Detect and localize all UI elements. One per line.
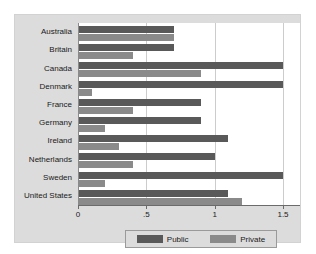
- bar-public: [78, 62, 283, 69]
- bar-group: [78, 169, 300, 187]
- bar-public: [78, 172, 283, 179]
- legend-label-public: Public: [167, 235, 189, 244]
- bar-public: [78, 99, 201, 106]
- bars-layer: [78, 23, 300, 205]
- category-label: Australia: [41, 27, 72, 36]
- plot-area: [78, 23, 300, 205]
- legend-swatch-public-icon: [137, 235, 163, 243]
- x-tick: [78, 205, 79, 209]
- category-label: Denmark: [40, 82, 72, 91]
- bar-public: [78, 81, 283, 88]
- graph-panel: AustraliaBritainCanadaDenmarkFranceGerma…: [14, 14, 301, 243]
- x-tick: [215, 205, 216, 209]
- chart-legend: Public Private: [125, 230, 277, 248]
- bar-public: [78, 190, 228, 197]
- x-tick-label: 0: [76, 210, 80, 219]
- category-label: Canada: [44, 64, 72, 73]
- x-tick-label: 1: [212, 210, 216, 219]
- category-label: Netherlands: [29, 155, 72, 164]
- bar-public: [78, 153, 215, 160]
- bar-public: [78, 117, 201, 124]
- x-tick-label: .5: [143, 210, 150, 219]
- clipped-header-text: [0, 0, 316, 8]
- bar-public: [78, 26, 174, 33]
- x-tick: [146, 205, 147, 209]
- bar-group: [78, 78, 300, 96]
- chart-figure: AustraliaBritainCanadaDenmarkFranceGerma…: [0, 0, 316, 254]
- legend-entry-public: Public: [137, 235, 189, 244]
- bar-private: [78, 161, 133, 168]
- bar-private: [78, 125, 105, 132]
- bar-group: [78, 96, 300, 114]
- legend-swatch-private-icon: [210, 235, 236, 243]
- legend-label-private: Private: [240, 235, 265, 244]
- clipped-header-glyphs: [18, 0, 316, 4]
- category-label: France: [47, 100, 72, 109]
- bar-group: [78, 187, 300, 205]
- category-label: United States: [24, 191, 72, 200]
- bar-group: [78, 41, 300, 59]
- bar-private: [78, 52, 133, 59]
- x-tick-label: 1.5: [277, 210, 288, 219]
- bar-private: [78, 107, 133, 114]
- category-label: Sweden: [43, 173, 72, 182]
- x-tick: [283, 205, 284, 209]
- bar-private: [78, 89, 92, 96]
- bar-public: [78, 44, 174, 51]
- bar-private: [78, 180, 105, 187]
- bar-public: [78, 135, 228, 142]
- bar-group: [78, 150, 300, 168]
- bar-private: [78, 70, 201, 77]
- bar-private: [78, 198, 242, 205]
- bar-private: [78, 143, 119, 150]
- category-label: Ireland: [48, 136, 72, 145]
- y-axis-line: [78, 23, 79, 205]
- category-label: Britain: [49, 45, 72, 54]
- bar-group: [78, 23, 300, 41]
- category-axis-labels: AustraliaBritainCanadaDenmarkFranceGerma…: [15, 23, 75, 205]
- bar-group: [78, 114, 300, 132]
- x-axis-line: [78, 205, 300, 206]
- bar-private: [78, 34, 174, 41]
- category-label: Germany: [39, 118, 72, 127]
- bar-group: [78, 132, 300, 150]
- legend-entry-private: Private: [210, 235, 265, 244]
- bar-group: [78, 59, 300, 77]
